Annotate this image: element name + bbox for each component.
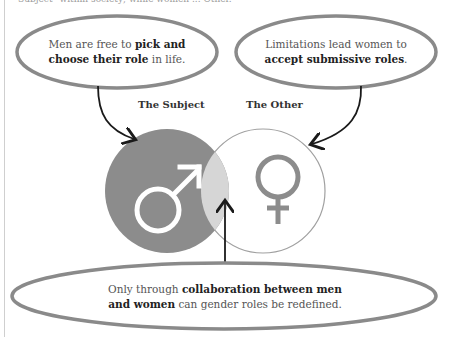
arrow-other bbox=[312, 86, 361, 144]
text-bold: choose their role bbox=[49, 53, 149, 65]
bubble-top-right-text: Limitations lead women to accept submiss… bbox=[246, 37, 426, 67]
text-plain: Limitations lead women to bbox=[265, 38, 407, 50]
diagram: Subject" within society; while women ...… bbox=[0, 0, 450, 337]
text-bold: and women bbox=[108, 298, 175, 310]
text-plain: in life. bbox=[148, 53, 185, 65]
text-bold: pick and bbox=[135, 38, 185, 50]
text-bold: accept submissive roles bbox=[265, 53, 404, 65]
bubble-top-left-text: Men are free to pick and choose their ro… bbox=[27, 37, 207, 67]
label-the-other: The Other bbox=[246, 99, 303, 110]
label-the-subject: The Subject bbox=[138, 99, 205, 110]
text-bold: collaboration between men bbox=[182, 283, 342, 295]
text-plain: Only through bbox=[108, 283, 182, 295]
bubble-bottom-text: Only through collaboration between men a… bbox=[60, 282, 390, 312]
arrow-subject bbox=[98, 86, 134, 139]
text-plain: . bbox=[404, 53, 407, 65]
text-plain: can gender roles be redefined. bbox=[175, 298, 342, 310]
text-plain: Men are free to bbox=[49, 38, 135, 50]
